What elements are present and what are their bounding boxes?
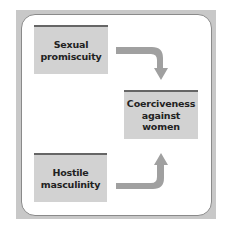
arrow-down-icon: [116, 47, 168, 80]
arrows-layer: [0, 0, 229, 225]
arrow-up-icon: [116, 153, 168, 189]
